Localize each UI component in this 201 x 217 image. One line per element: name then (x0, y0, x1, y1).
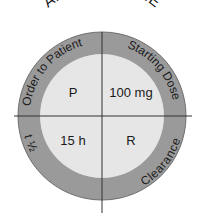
quadrant-clearance-value: R (126, 133, 135, 148)
drug-wheel-diagram: AMITRIPTYLINE Order to Patient Starting … (0, 0, 201, 217)
quadrant-order-value: P (69, 85, 78, 100)
drug-title: AMITRIPTYLINE (40, 0, 165, 10)
quadrant-dose-value: 100 mg (109, 85, 152, 100)
quadrant-half-life-value: 15 h (60, 133, 85, 148)
